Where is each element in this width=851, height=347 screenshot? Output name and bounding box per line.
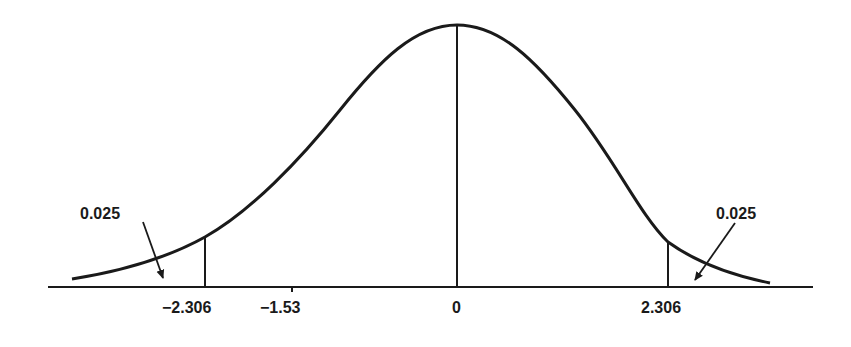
center-label: 0 — [452, 299, 461, 316]
statistic-tick-label: −1.53 — [260, 299, 301, 316]
t-distribution-diagram: 0.025 0.025 −2.306 −1.53 0 2.306 — [0, 0, 851, 347]
left-tail-area-label: 0.025 — [80, 205, 120, 222]
left-tail-arrow — [143, 222, 163, 278]
right-tail-area-label: 0.025 — [716, 205, 756, 222]
density-curve — [72, 25, 770, 283]
left-critical-label: −2.306 — [162, 299, 211, 316]
right-critical-label: 2.306 — [641, 299, 681, 316]
